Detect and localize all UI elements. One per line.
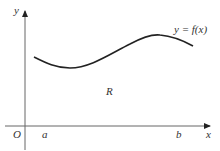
x-axis-label: x — [205, 128, 211, 140]
curve-label: y = f(x) — [173, 23, 207, 36]
origin-label: O — [13, 128, 21, 140]
region-label: R — [105, 85, 113, 97]
area-under-curve-diagram: y x O a b R y = f(x) — [0, 0, 220, 151]
function-curve — [34, 35, 193, 68]
a-label: a — [42, 128, 48, 140]
y-axis-label: y — [13, 4, 19, 16]
b-label: b — [176, 128, 182, 140]
